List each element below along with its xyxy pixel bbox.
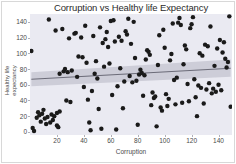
scatter-point: [187, 99, 191, 103]
scatter-point: [189, 22, 193, 26]
scatter-point: [204, 87, 208, 91]
scatter-point: [222, 40, 226, 44]
scatter-point: [153, 94, 157, 98]
scatter-point: [193, 95, 197, 99]
scatter-point: [167, 97, 171, 101]
scatter-point: [126, 17, 130, 21]
scatter-point: [115, 84, 119, 88]
scatter-point: [125, 32, 129, 36]
y-axis-label-wrapper: Healthy life expectancy: [4, 14, 16, 135]
scatter-point: [129, 42, 133, 46]
x-tick-label: 140: [206, 137, 232, 145]
scatter-point: [130, 80, 134, 84]
scatter-point: [165, 104, 169, 108]
scatter-point: [70, 68, 74, 72]
scatter-point: [134, 79, 138, 83]
scatter-point: [168, 58, 172, 62]
y-tick-mark: [28, 53, 30, 54]
x-tick-label: 60: [98, 137, 124, 145]
x-tick-label: 20: [44, 137, 70, 145]
scatter-point: [219, 88, 223, 92]
x-tick-mark: [57, 135, 58, 137]
scatter-point: [118, 66, 122, 70]
scatter-point: [57, 109, 61, 113]
scatter-point: [164, 92, 168, 96]
x-tick-label: 120: [179, 137, 205, 145]
scatter-point: [181, 62, 185, 66]
scatter-point: [32, 129, 36, 133]
scatter-point: [131, 20, 135, 24]
scatter-point: [226, 60, 230, 64]
scatter-point: [154, 124, 158, 128]
scatter-point: [179, 23, 183, 27]
scatter-point: [82, 85, 86, 89]
scatter-point: [83, 24, 87, 28]
plot-canvas: [30, 14, 232, 135]
scatter-point: [53, 28, 57, 32]
chart-title: Corruption vs Healthy life Expectancy: [28, 1, 234, 14]
y-tick-mark: [28, 85, 30, 86]
scatter-point: [180, 101, 184, 105]
scatter-point: [212, 64, 216, 68]
scatter-point: [121, 106, 125, 110]
scatter-point: [195, 114, 199, 118]
scatter-point: [149, 103, 153, 107]
scatter-point: [156, 63, 160, 67]
scatter-point: [122, 79, 126, 83]
scatter-point: [66, 70, 70, 74]
scatter-point: [60, 27, 64, 31]
scatter-point: [214, 90, 218, 94]
scatter-point: [144, 57, 148, 61]
scatter-point: [106, 45, 110, 49]
scatter-point: [67, 36, 71, 40]
x-tick-mark: [84, 135, 85, 137]
x-tick-label: 100: [152, 137, 178, 145]
scatter-point: [102, 64, 106, 68]
y-tick-mark: [28, 69, 30, 70]
scatter-point: [119, 39, 123, 43]
scatter-point: [68, 100, 72, 104]
scatter-point: [86, 97, 90, 101]
scatter-point: [56, 125, 60, 129]
chart-figure: Corruption vs Healthy life Expectancy 02…: [0, 0, 236, 164]
y-tick-mark: [28, 132, 30, 133]
scatter-point: [57, 72, 61, 76]
x-tick-mark: [138, 135, 139, 137]
scatter-point: [75, 75, 79, 79]
scatter-point: [169, 52, 173, 56]
y-tick-mark: [28, 116, 30, 117]
scatter-point: [92, 72, 96, 76]
scatter-point: [98, 25, 102, 29]
scatter-point: [107, 61, 111, 65]
scatter-point: [218, 38, 222, 42]
scatter-point: [91, 34, 95, 38]
scatter-point: [110, 93, 114, 97]
scatter-point: [103, 37, 107, 41]
scatter-point: [141, 94, 145, 98]
scatter-point: [228, 105, 232, 109]
scatter-point: [114, 127, 118, 131]
scatter-point: [227, 14, 231, 18]
scatter-point: [185, 82, 189, 86]
scatter-point: [74, 31, 78, 35]
y-axis-label: Healthy life expectancy: [4, 51, 17, 111]
scatter-point: [136, 123, 140, 127]
scatter-point: [39, 119, 43, 123]
scatter-point: [224, 65, 228, 69]
scatter-point: [40, 112, 44, 116]
x-tick-label: 40: [71, 137, 97, 145]
scatter-point: [184, 47, 188, 51]
scatter-point: [111, 18, 115, 22]
scatter-point: [200, 53, 204, 57]
scatter-point: [45, 115, 49, 119]
y-tick-mark: [28, 38, 30, 39]
scatter-point: [127, 74, 131, 78]
scatter-point: [41, 108, 45, 112]
scatter-point: [150, 90, 154, 94]
scatter-point: [191, 15, 195, 19]
scatter-point: [199, 86, 203, 90]
scatter-point: [210, 91, 214, 95]
scatter-point: [47, 17, 51, 21]
x-tick-mark: [219, 135, 220, 137]
scatter-point: [161, 28, 165, 32]
